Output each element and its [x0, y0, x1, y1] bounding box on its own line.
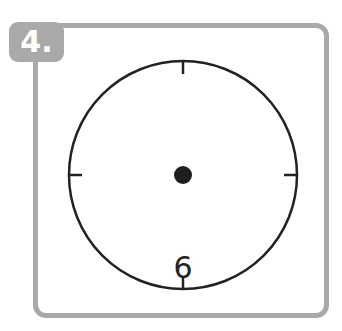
numeral-6: 6 [173, 250, 192, 285]
clock-face: 6 [0, 0, 342, 331]
clock-center-dot [174, 166, 192, 184]
